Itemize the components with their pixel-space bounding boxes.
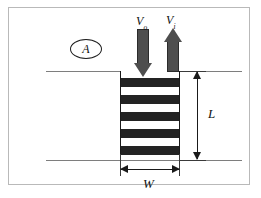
width-dimension-arrowhead-right: [172, 165, 180, 173]
slab-stripe: [121, 146, 179, 155]
velocity-out-base: V: [136, 14, 143, 28]
figure-root: Vo Vi A L: [0, 0, 261, 198]
area-callout-label: A: [71, 40, 101, 58]
area-callout-circle: A: [70, 39, 102, 59]
boundary-line-bottom: [46, 160, 242, 161]
length-dimension-arrowhead-bottom: [193, 152, 201, 160]
length-label: L: [208, 107, 215, 120]
velocity-out-subscript: o: [144, 23, 148, 32]
inflow-arrow-shaft: [137, 29, 149, 64]
velocity-out-label: Vo: [136, 15, 147, 30]
velocity-in-subscript: i: [174, 22, 176, 31]
length-dimension-arrowhead-top: [193, 71, 201, 79]
striped-slab: [120, 71, 180, 160]
figure-frame: Vo Vi A L: [8, 7, 250, 185]
outflow-arrow-shaft: [167, 41, 179, 72]
length-dimension-tick-bottom: [180, 160, 206, 161]
width-label: W: [143, 177, 154, 190]
slab-stripe: [121, 95, 179, 104]
slab-stripe: [121, 112, 179, 121]
width-dimension-arrowhead-left: [120, 165, 128, 173]
slab-stripe: [121, 129, 179, 138]
inflow-arrow-head: [134, 63, 152, 77]
outflow-arrow-head: [164, 28, 182, 42]
velocity-in-base: V: [166, 13, 173, 27]
width-dimension-shaft: [121, 169, 179, 170]
slab-stripe: [121, 78, 179, 87]
velocity-in-label: Vi: [166, 14, 175, 29]
length-dimension-shaft: [197, 72, 198, 159]
